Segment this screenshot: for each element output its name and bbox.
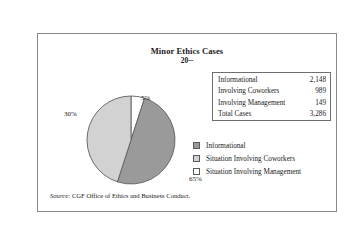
legend-item-informational: Informational — [193, 139, 338, 152]
figure-frame: Minor Ethics Cases 20-- 5% 30% 65% Infor… — [37, 33, 337, 212]
table-row: Involving Management 149 — [218, 97, 326, 108]
page-title: Minor Ethics Cases — [38, 46, 336, 56]
legend: Informational Situation Involving Cowork… — [193, 139, 338, 178]
data-table: Informational 2,148 Involving Coworkers … — [218, 75, 326, 119]
table-cell-value: 2,148 — [305, 75, 326, 86]
source-text: CGF Office of Ethics and Business Conduc… — [72, 192, 190, 199]
pie-chart-svg — [83, 92, 179, 188]
legend-item-management: Situation Involving Management — [193, 165, 338, 178]
data-table-box: Informational 2,148 Involving Coworkers … — [212, 72, 331, 121]
legend-swatch-icon — [193, 168, 200, 175]
source-note: Source: CGF Office of Ethics and Busines… — [50, 192, 190, 199]
pie-chart — [83, 92, 179, 188]
legend-swatch-icon — [193, 142, 200, 149]
legend-item-coworkers: Situation Involving Coworkers — [193, 152, 338, 165]
table-cell-label: Involving Coworkers — [218, 86, 305, 97]
legend-label: Situation Involving Coworkers — [206, 155, 295, 163]
table-cell-label: Total Cases — [218, 108, 305, 119]
legend-label: Informational — [206, 142, 246, 150]
table-row: Informational 2,148 — [218, 75, 326, 86]
table-cell-value: 989 — [305, 86, 326, 97]
chart-subtitle: 20-- — [38, 56, 336, 65]
table-cell-label: Informational — [218, 75, 305, 86]
table-cell-label: Involving Management — [218, 97, 305, 108]
table-row-total: Total Cases 3,286 — [218, 108, 326, 119]
table-row: Involving Coworkers 989 — [218, 86, 326, 97]
source-label: Source: — [50, 192, 70, 199]
chart-title-block: Minor Ethics Cases 20-- — [38, 46, 336, 65]
table-cell-value: 149 — [305, 97, 326, 108]
pie-label-coworkers: 30% — [64, 110, 77, 118]
legend-swatch-icon — [193, 155, 200, 162]
table-cell-value: 3,286 — [305, 108, 326, 119]
legend-label: Situation Involving Management — [206, 168, 301, 176]
pie-label-management: 5% — [141, 94, 150, 102]
